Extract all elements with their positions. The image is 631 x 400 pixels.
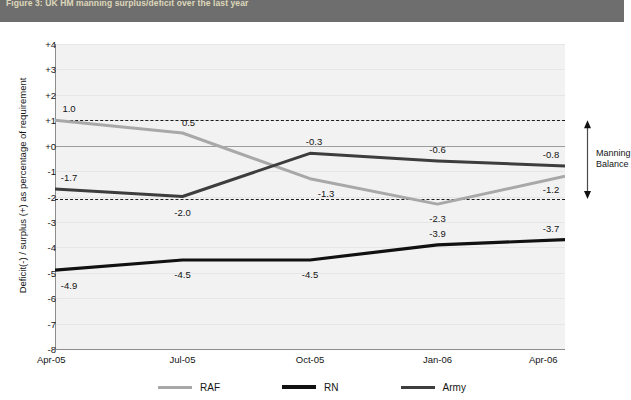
y-axis-tick: +1 [30,115,56,126]
data-point-label: -0.3 [306,136,322,147]
y-axis-tick: -8 [30,344,56,355]
legend-label: RN [324,382,338,393]
y-axis-tick: +3 [30,64,56,75]
manning-balance-label: Manning Balance [596,148,631,170]
data-point-label: -3.7 [543,222,559,233]
data-point-label: 1.0 [62,103,75,114]
legend-swatch-rn [282,385,316,388]
y-axis-tick: +0 [30,140,56,151]
chart-container: Deficit(-) / surplus (+) as percentage o… [0,22,624,400]
x-axis-tick: Apr-05 [37,354,66,365]
series-line-rn [55,240,565,271]
y-axis-tick: -2 [30,191,56,202]
y-axis-title: Deficit(-) / surplus (+) as percentage o… [17,36,28,336]
figure-title: Figure 3: UK HM manning surplus/deficit … [6,0,248,8]
manning-balance-annotation: Manning Balance [576,44,624,349]
y-axis-tick: -1 [30,166,56,177]
data-point-label: -3.9 [429,227,445,238]
x-axis-line [55,349,565,350]
data-point-label: -1.3 [318,187,334,198]
y-axis-tick: +4 [30,39,56,50]
data-point-label: -0.8 [543,149,559,160]
data-point-label: 0.5 [182,116,195,127]
data-point-label: -1.2 [543,184,559,195]
x-axis-tick: Jul-05 [170,354,196,365]
x-axis-tick: Jan-06 [423,354,452,365]
data-point-label: -4.5 [174,269,190,280]
manning-balance-line1: Manning [596,148,631,159]
legend-swatch-raf [158,386,192,389]
y-axis-tick: -4 [30,242,56,253]
y-axis-tick: +2 [30,89,56,100]
legend-item-rn[interactable]: RN [282,382,338,393]
y-axis-tick: -7 [30,318,56,329]
legend-item-raf[interactable]: RAF [158,382,220,393]
data-point-label: -4.9 [61,280,77,291]
legend-label: RAF [200,382,220,393]
y-axis-tick: -3 [30,216,56,227]
plot-inner: 1.00.5-1.3-2.3-1.2-4.9-4.5-4.5-3.9-3.7-1… [55,44,565,349]
y-axis-tick: -6 [30,293,56,304]
series-line-army [55,153,565,196]
x-axis-tick: Apr-06 [529,354,558,365]
legend-item-army[interactable]: Army [401,382,466,393]
series-layer [55,44,565,349]
data-point-label: -4.5 [302,269,318,280]
y-axis-tick: -5 [30,267,56,278]
double-arrow-icon [582,44,593,349]
chart-legend: RAFRNArmy [0,374,624,400]
data-point-label: -0.6 [429,143,445,154]
manning-balance-line2: Balance [596,159,631,170]
data-point-label: -2.3 [429,213,445,224]
legend-label: Army [443,382,466,393]
plot-area: 1.00.5-1.3-2.3-1.2-4.9-4.5-4.5-3.9-3.7-1… [55,44,565,349]
legend-swatch-army [401,386,435,389]
x-axis-tick: Oct-05 [296,354,325,365]
data-point-label: -1.7 [61,171,77,182]
data-point-label: -2.0 [174,206,190,217]
header-banner: Figure 3: UK HM manning surplus/deficit … [0,0,624,22]
